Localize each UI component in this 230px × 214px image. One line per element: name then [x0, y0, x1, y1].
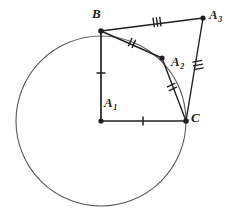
point-label-a3-text: A: [209, 7, 218, 22]
point-label-a3: A3: [209, 8, 222, 21]
point-dot-a3: [200, 15, 205, 20]
point-label-a1-sub: 1: [113, 103, 117, 112]
point-label-a1: A1: [104, 96, 117, 109]
point-dot-c: [183, 118, 189, 124]
segment-b-a2: [101, 31, 162, 58]
point-dot-b: [98, 28, 104, 34]
point-label-b: B: [92, 7, 101, 20]
tick-mark-b-a3: [153, 17, 161, 27]
point-label-a2: A2: [171, 55, 184, 68]
point-dot-a2: [159, 55, 164, 60]
tick-mark-a2-c: [167, 83, 177, 91]
point-label-c: C: [191, 111, 200, 124]
point-label-b-text: B: [92, 6, 101, 21]
point-label-a2-sub: 2: [180, 62, 184, 71]
point-label-c-text: C: [191, 110, 200, 125]
point-label-a1-text: A: [104, 95, 113, 110]
point-dot-a1: [98, 118, 103, 123]
segment-b-a3: [101, 18, 203, 31]
point-label-a3-sub: 3: [218, 15, 222, 24]
geometry-figure: B A3 A2 A1 C: [0, 0, 230, 214]
point-label-a2-text: A: [171, 54, 180, 69]
